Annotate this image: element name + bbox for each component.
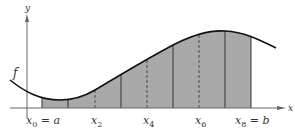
x-axis-label: x — [288, 103, 293, 113]
svg-text:x4: x4 — [143, 114, 154, 129]
tick-label-x0: x0 = a — [26, 114, 60, 129]
tick-label-x8: x8 = b — [235, 114, 270, 129]
tick-label-x6: x6 — [195, 114, 206, 129]
x-axis-arrow-icon — [277, 106, 286, 110]
y-axis-label: y — [24, 3, 31, 13]
function-label: f — [12, 66, 20, 80]
tick-label-x4: x4 — [143, 114, 154, 129]
riemann-partition-diagram: y x f x0 = a x2 x4 x6 x8 = b — [0, 0, 295, 131]
svg-text:x2: x2 — [91, 114, 102, 129]
y-axis-arrow-icon — [25, 14, 29, 22]
svg-text:x0 = a: x0 = a — [26, 114, 60, 129]
svg-text:x6: x6 — [195, 114, 206, 129]
svg-text:x8 = b: x8 = b — [235, 114, 270, 129]
shaded-area — [42, 20, 251, 108]
tick-label-x2: x2 — [91, 114, 102, 129]
